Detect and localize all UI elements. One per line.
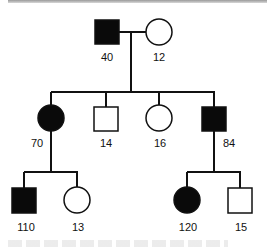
affected-male-40 [95,20,119,44]
label-13: 13 [72,221,84,233]
unaffected-female-12 [146,19,172,45]
affected-female-120 [174,187,200,213]
label-40: 40 [101,51,113,63]
label-120: 120 [179,221,197,233]
affected-male-84 [202,107,226,131]
affected-male-110 [12,188,36,213]
unaffected-female-13 [64,187,90,213]
label-14: 14 [100,137,112,149]
unaffected-female-16 [146,105,172,131]
label-15: 15 [235,221,247,233]
label-110: 110 [17,221,35,233]
label-84: 84 [223,137,235,149]
pedigree-chart: 40 12 70 14 16 84 110 13 120 15 [0,0,267,247]
figure-caption-cutoff [8,240,228,247]
unaffected-male-15 [228,188,252,213]
label-16: 16 [154,137,166,149]
unaffected-male-14 [94,107,118,131]
affected-female-70 [38,105,64,131]
label-12: 12 [153,51,165,63]
label-70: 70 [31,137,43,149]
